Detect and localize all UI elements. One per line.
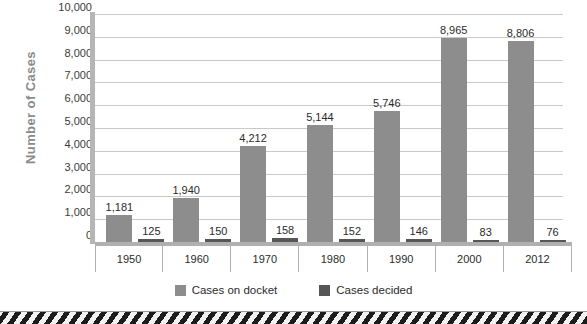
bar-group: 5,144152 [296, 14, 363, 242]
x-axis-category-2000: 2000 [436, 246, 504, 272]
y-axis-tick-label: 6,000 [38, 93, 92, 104]
x-axis-category-1980: 1980 [299, 246, 367, 272]
y-axis-tick-label: 9,000 [38, 25, 92, 36]
y-axis-tick-label: 4,000 [38, 139, 92, 150]
bar-cases-on-docket [374, 111, 400, 242]
y-axis-tick-label: 3,000 [38, 162, 92, 173]
x-axis-category-1950: 1950 [95, 246, 163, 272]
x-axis-category-1970: 1970 [231, 246, 299, 272]
bar-cases-on-docket [508, 41, 534, 242]
y-axis-tick-label: 0 [38, 230, 92, 241]
bar-cases-on-docket [173, 198, 199, 242]
bar-group: 8,80676 [496, 14, 563, 242]
bar-value-label: 8,965 [433, 24, 475, 36]
y-axis-line [90, 12, 95, 244]
legend-item: Cases decided [319, 284, 412, 296]
bar-group: 1,940150 [162, 14, 229, 242]
bar-group: 1,181125 [95, 14, 162, 242]
bar-group: 4,212158 [229, 14, 296, 242]
legend-label: Cases decided [336, 284, 412, 296]
x-axis-category-1990: 1990 [368, 246, 436, 272]
bar-value-label: 1,181 [98, 201, 140, 213]
bar-value-label: 76 [532, 226, 574, 238]
bar-group: 8,96583 [429, 14, 496, 242]
bar-value-label: 8,806 [500, 27, 542, 39]
y-axis-tick-label: 7,000 [38, 70, 92, 81]
bar-cases-on-docket [106, 215, 132, 242]
legend-label: Cases on docket [192, 284, 278, 296]
bar-cases-on-docket [240, 146, 266, 242]
y-axis-tick-label: 2,000 [38, 184, 92, 195]
bar-group: 5,746146 [362, 14, 429, 242]
x-axis-category-labels: 1950196019701980199020002012 [95, 246, 572, 272]
legend-swatch-icon [175, 285, 186, 296]
legend-item: Cases on docket [175, 284, 278, 296]
bar-value-label: 4,212 [232, 132, 274, 144]
x-axis-category-2012: 2012 [504, 246, 572, 272]
bar-cases-on-docket [307, 125, 333, 242]
y-axis-tick-label: 10,000 [38, 2, 92, 13]
bar-value-label: 1,940 [165, 184, 207, 196]
x-axis-category-1960: 1960 [163, 246, 231, 272]
bar-value-label: 5,144 [299, 111, 341, 123]
plot-area: 1,1811251,9401504,2121585,1441525,746146… [95, 14, 563, 242]
y-axis-tick-label: 8,000 [38, 48, 92, 59]
y-axis-tick-label: 5,000 [38, 116, 92, 127]
bar-value-label: 5,746 [366, 97, 408, 109]
bar-cases-on-docket [441, 38, 467, 242]
y-axis-tick-labels: 10,0009,0008,0007,0006,0005,0004,0003,00… [38, 8, 92, 242]
bottom-hazard-stripe [0, 311, 587, 324]
y-axis-tick-label: 1,000 [38, 207, 92, 218]
legend-swatch-icon [319, 285, 330, 296]
y-axis-title: Number of Cases [23, 18, 38, 198]
chart-legend: Cases on docketCases decided [0, 281, 587, 299]
